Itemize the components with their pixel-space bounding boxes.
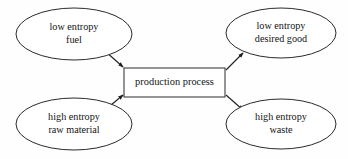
node-input-raw-material-label-line1: high entropy	[48, 111, 101, 122]
node-input-raw-material-label-line2: raw material	[48, 124, 99, 135]
node-input-raw-material[interactable]: high entropy raw material	[16, 98, 132, 150]
node-output-waste-label-line1: high entropy	[255, 111, 308, 122]
node-output-desired-good[interactable]: low entropy desired good	[226, 8, 336, 58]
entropy-flow-diagram: low entropy fuel high entropy raw materi…	[0, 0, 348, 159]
node-output-desired-good-label-line2: desired good	[255, 33, 307, 44]
node-production-process-label: production process	[135, 76, 214, 87]
node-output-waste[interactable]: high entropy waste	[226, 99, 336, 149]
edge-process-to-desired-good	[226, 53, 243, 70]
node-production-process[interactable]: production process	[124, 68, 225, 97]
node-input-fuel-label-line1: low entropy	[50, 21, 100, 32]
node-output-desired-good-label-line1: low entropy	[257, 20, 307, 31]
node-output-waste-label-line2: waste	[269, 124, 293, 135]
diagram-canvas: low entropy fuel high entropy raw materi…	[0, 0, 348, 159]
node-input-fuel[interactable]: low entropy fuel	[16, 8, 132, 60]
node-input-fuel-label-line2: fuel	[66, 34, 82, 45]
